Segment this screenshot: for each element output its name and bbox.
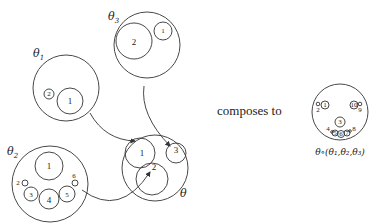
theta2-slot-1: 1 bbox=[47, 161, 52, 171]
theta-circle: 1 3 2 bbox=[122, 135, 188, 201]
composed-circle: 2 1 10 9 3 4 5 6 7 8 bbox=[312, 84, 368, 140]
theta2-circle: 1 2 3 4 5 6 bbox=[12, 146, 88, 222]
theta3-slot-1: 1 bbox=[161, 27, 165, 35]
arrow-theta2-to-slot2 bbox=[82, 172, 150, 201]
theta-slot-3: 3 bbox=[174, 145, 179, 155]
composes-to-caption: composes to bbox=[217, 103, 282, 118]
composed-slot-5: 5 bbox=[333, 129, 337, 137]
composed-slot-3: 3 bbox=[338, 118, 342, 126]
composed-slot-8: 8 bbox=[352, 125, 356, 133]
theta2-slot-5: 5 bbox=[65, 191, 69, 199]
arrow-theta1-to-slot1 bbox=[90, 113, 135, 141]
theta2-label: θ2 bbox=[7, 145, 19, 160]
theta-slot-2: 2 bbox=[152, 162, 157, 172]
theta1-slot-1: 1 bbox=[68, 96, 73, 106]
theta3-slot-2: 2 bbox=[132, 37, 137, 47]
theta2-slot-3: 3 bbox=[29, 191, 33, 199]
theta1-circle: 2 1 bbox=[33, 55, 99, 121]
composed-slot-6: 6 bbox=[339, 130, 343, 138]
theta2-slot-6: 6 bbox=[72, 172, 76, 180]
composed-slot-9: 9 bbox=[358, 106, 362, 114]
theta3-label: θ3 bbox=[108, 10, 120, 25]
theta1-slot-2: 2 bbox=[47, 90, 51, 98]
theta3-circle: 2 1 bbox=[114, 12, 180, 78]
theta1-label: θ1 bbox=[33, 47, 44, 62]
theta2-slot-2: 2 bbox=[16, 179, 20, 187]
composed-slot-10: 10 bbox=[351, 101, 359, 109]
theta-label: θ bbox=[180, 187, 187, 200]
operad-composition-diagram: 2 1 θ1 2 1 θ3 1 2 3 4 5 6 θ2 1 3 2 θ bbox=[0, 0, 381, 224]
composed-slot-2: 2 bbox=[316, 106, 320, 114]
composed-slot-4: 4 bbox=[326, 125, 330, 133]
theta2-slot-4: 4 bbox=[47, 195, 52, 205]
composed-slot-1: 1 bbox=[323, 101, 327, 109]
theta-slot-1: 1 bbox=[140, 148, 145, 158]
composed-label: θ∘(θ₁,θ₂,θ₃) bbox=[315, 147, 365, 157]
